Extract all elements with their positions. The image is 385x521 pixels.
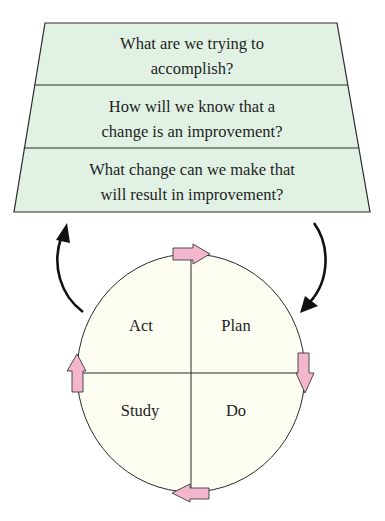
curved-arrow-down-icon (310, 223, 326, 302)
arrowhead-up-icon (56, 223, 70, 243)
quadrant-study-label: Study (121, 401, 160, 420)
questions-trapezoid: What are we trying to accomplish? How wi… (14, 23, 370, 212)
arrowhead-down-icon (300, 296, 318, 313)
curved-arrow-up-icon (57, 238, 83, 312)
pdsa-diagram: What are we trying to accomplish? How wi… (0, 0, 385, 521)
question-measures-line2: change is an improvement? (102, 122, 283, 141)
pdsa-cycle: Act Plan Study Do (67, 244, 314, 502)
question-measures-line1: How will we know that a (109, 97, 276, 116)
question-aim-line2: accomplish? (151, 59, 233, 78)
quadrant-plan-label: Plan (221, 316, 250, 335)
question-aim-line1: What are we trying to (120, 34, 264, 53)
feedback-arrow-left (56, 223, 83, 312)
feedback-arrow-right (300, 223, 326, 313)
question-changes-line2: will result in improvement? (101, 185, 284, 204)
quadrant-do-label: Do (226, 401, 246, 420)
quadrant-act-label: Act (129, 316, 153, 335)
question-changes-line1: What change can we make that (89, 160, 295, 179)
